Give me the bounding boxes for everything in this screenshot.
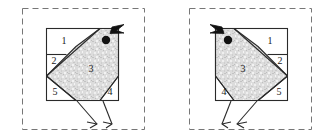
piece-label-5: 5: [53, 86, 58, 97]
panel-left-bird: 1 2 3 4 5: [0, 0, 167, 138]
foot-right: [222, 122, 231, 128]
leg-right: [103, 101, 112, 124]
left-bird-drawing: 1 2 3 4 5: [0, 0, 167, 138]
piece-label-2: 2: [52, 55, 57, 66]
right-bird-drawing: 1 2 3 4 5: [167, 0, 334, 138]
eye-dot: [224, 36, 232, 44]
beak-arrow: [110, 25, 124, 34]
foot-right: [103, 122, 112, 128]
piece-label-5: 5: [277, 86, 282, 97]
piece-label-3: 3: [89, 63, 94, 74]
beak-arrow: [210, 25, 224, 34]
leg-left: [237, 101, 257, 124]
piece-label-4: 4: [108, 86, 113, 97]
piece-label-2: 2: [278, 55, 283, 66]
piece-label-4: 4: [222, 86, 227, 97]
piece-label-1: 1: [62, 35, 67, 46]
leg-left: [77, 101, 97, 124]
eye-dot: [102, 36, 110, 44]
piece-label-3: 3: [241, 63, 246, 74]
leg-right: [222, 101, 231, 124]
piece-label-1: 1: [268, 35, 273, 46]
figure-canvas: 1 2 3 4 5: [0, 0, 334, 138]
panel-right-bird: 1 2 3 4 5: [167, 0, 334, 138]
